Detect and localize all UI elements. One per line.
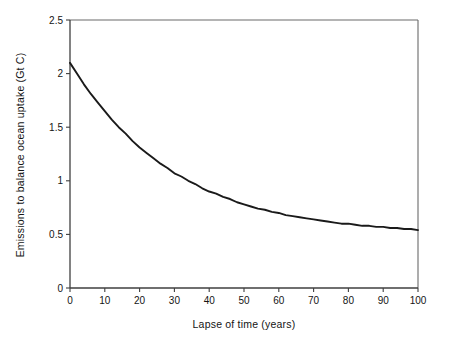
x-tick-label: 10 — [99, 295, 111, 306]
plot-frame — [70, 20, 418, 288]
chart-figure: Emissions to balance ocean uptake (Gt C)… — [0, 0, 463, 344]
y-tick-label: 1.5 — [49, 122, 63, 133]
x-tick-label: 40 — [204, 295, 216, 306]
y-tick-label: 1 — [57, 175, 63, 186]
x-axis-ticks: 0102030405060708090100 — [67, 288, 427, 306]
x-tick-label: 50 — [238, 295, 250, 306]
x-tick-label: 100 — [410, 295, 427, 306]
y-tick-label: 0 — [57, 283, 63, 294]
chart-plot-area: 00.511.522.5 0102030405060708090100 — [0, 0, 463, 344]
x-tick-label: 70 — [308, 295, 320, 306]
axis-spines — [70, 20, 418, 288]
x-tick-label: 20 — [134, 295, 146, 306]
y-tick-label: 0.5 — [49, 229, 63, 240]
y-axis-ticks: 00.511.522.5 — [49, 15, 70, 294]
x-tick-label: 90 — [378, 295, 390, 306]
x-tick-label: 60 — [273, 295, 285, 306]
x-tick-label: 0 — [67, 295, 73, 306]
x-tick-label: 80 — [343, 295, 355, 306]
data-series-line — [70, 63, 418, 230]
y-tick-label: 2.5 — [49, 15, 63, 26]
y-tick-label: 2 — [57, 68, 63, 79]
x-tick-label: 30 — [169, 295, 181, 306]
